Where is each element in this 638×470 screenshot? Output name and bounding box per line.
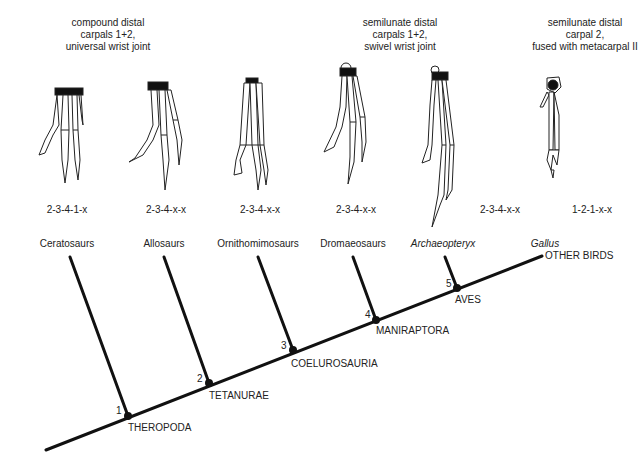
node-4 (372, 316, 380, 324)
node-5 (453, 284, 461, 292)
terminal-other-birds: OTHER BIRDS (545, 250, 613, 261)
clade-coelurosauria: COELUROSAURIA (291, 358, 378, 369)
node-2 (205, 379, 213, 387)
clade-theropoda: THEROPODA (128, 422, 191, 433)
branch-ornithomimosaurs (258, 257, 293, 350)
clade-aves: AVES (455, 294, 481, 305)
node-number-3: 3 (281, 340, 287, 351)
node-1 (124, 412, 132, 420)
node-number-4: 4 (365, 309, 371, 320)
node-number-2: 2 (197, 373, 203, 384)
branch-ceratosaurs (70, 257, 128, 416)
cladogram (0, 0, 638, 470)
node-number-1: 1 (116, 405, 122, 416)
node-3 (289, 346, 297, 354)
clade-maniraptora: MANIRAPTORA (376, 325, 449, 336)
node-number-5: 5 (446, 278, 452, 289)
clade-tetanurae: TETANURAE (209, 390, 269, 401)
branch-allosaurs (164, 257, 209, 383)
